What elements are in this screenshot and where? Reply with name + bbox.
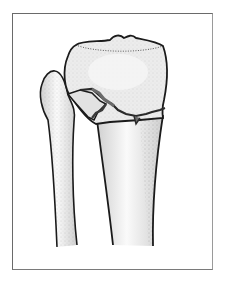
- tibia-plateau: [65, 36, 167, 124]
- bone-fracture-illustration: [0, 0, 228, 281]
